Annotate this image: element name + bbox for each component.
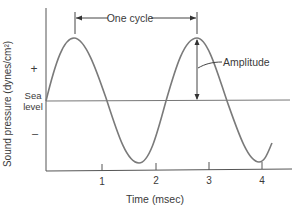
x-tick-label-2: 2 [153,175,159,186]
x-axis [46,169,292,171]
x-tick-label-4: 4 [259,175,265,186]
sound-wave-diagram: 1 2 3 4 Time (msec) Sound pressure (dyne… [0,0,299,212]
sea-level-label-line1: Sea [25,90,43,101]
x-tick-label-3: 3 [206,175,212,186]
sea-level-line [46,100,290,101]
cycle-arrow-right-icon [190,16,196,21]
negative-marker: – [32,127,39,139]
amplitude-arrow-up-icon [195,39,200,45]
cycle-arrow-left-icon [76,16,82,21]
x-tick-label-1: 1 [99,176,105,187]
one-cycle-label: One cycle [107,12,154,24]
amplitude-annotation [197,40,222,99]
x-axis-label: Time (msec) [126,193,184,205]
amplitude-label: Amplitude [223,56,270,68]
y-axis-label: Sound pressure (dynes/cm²) [2,41,13,167]
sea-level-label-line2: level [23,101,43,112]
positive-marker: + [30,62,37,76]
amplitude-arrow-down-icon [195,94,200,100]
